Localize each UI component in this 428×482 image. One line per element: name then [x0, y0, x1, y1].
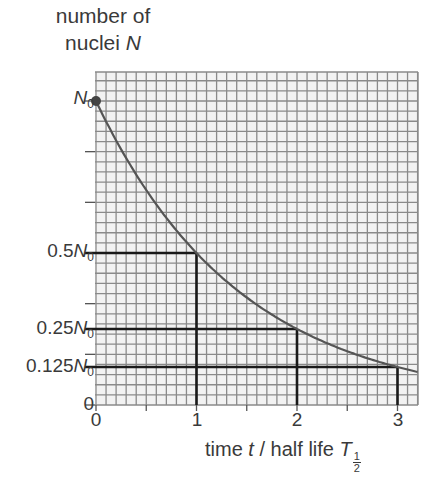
y-tick-quarter: 0.25N0 — [37, 318, 94, 344]
x-axis-label: time t / half life T12 — [205, 437, 361, 474]
y-tick-half: 0.5N0 — [47, 241, 94, 267]
half-fraction: 12 — [353, 451, 361, 474]
x-tick-2: 2 — [287, 410, 307, 430]
y-axis-label-line1: number of — [0, 2, 206, 29]
x-tick-1: 1 — [187, 410, 207, 430]
x-tick-0: 0 — [86, 410, 106, 430]
x-tick-3: 3 — [388, 410, 408, 430]
y-tick-n0: N0 — [74, 88, 94, 114]
y-axis-label: number of nuclei N — [0, 2, 206, 56]
y-axis-label-line2: nuclei N — [0, 29, 206, 56]
y-tick-eighth: 0.125N0 — [26, 356, 94, 382]
